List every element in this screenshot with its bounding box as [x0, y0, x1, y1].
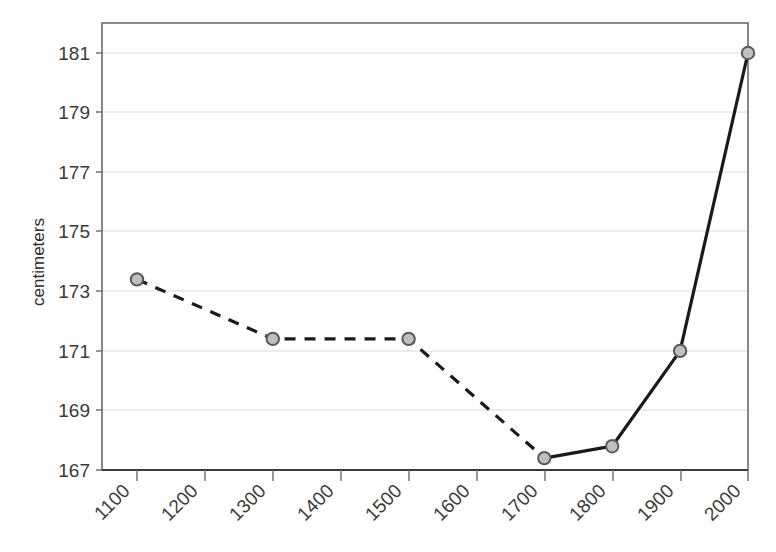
- xtick-label: 1200: [157, 480, 202, 525]
- xtick-label: 1700: [497, 480, 542, 525]
- x-tick-marks: [137, 470, 748, 481]
- chart-canvas: 181 179 177 175 173 171 169 167 centimet…: [0, 0, 776, 552]
- y-tick-marks: [96, 53, 102, 470]
- ytick-label: 167: [58, 460, 90, 481]
- plot-background: [102, 23, 748, 470]
- ytick-label: 175: [58, 221, 90, 242]
- data-point-marker: [402, 333, 414, 345]
- data-point-marker: [267, 333, 279, 345]
- ytick-label: 179: [58, 102, 90, 123]
- xtick-label: 1500: [361, 480, 406, 525]
- ytick-label: 169: [58, 400, 90, 421]
- xtick-label: 1300: [225, 480, 270, 525]
- xtick-label: 2000: [700, 480, 745, 525]
- xtick-label: 1900: [633, 480, 678, 525]
- ytick-label: 181: [58, 43, 90, 64]
- data-point-marker: [606, 440, 618, 452]
- x-axis-tick-labels: 1100 1200 1300 1400 1500 1600 1700 1800 …: [90, 480, 745, 525]
- xtick-label: 1100: [90, 480, 134, 524]
- ytick-label: 177: [58, 162, 90, 183]
- data-point-marker: [131, 273, 143, 285]
- data-point-marker: [538, 452, 550, 464]
- data-point-marker: [674, 345, 686, 357]
- data-point-marker: [742, 47, 754, 59]
- ytick-label: 173: [58, 281, 90, 302]
- xtick-label: 1800: [565, 480, 610, 525]
- y-axis-title: centimeters: [29, 218, 48, 306]
- xtick-label: 1400: [293, 480, 338, 525]
- line-chart: 181 179 177 175 173 171 169 167 centimet…: [0, 0, 776, 552]
- ytick-label: 171: [58, 341, 90, 362]
- xtick-label: 1600: [429, 480, 474, 525]
- y-axis-tick-labels: 181 179 177 175 173 171 169 167: [58, 43, 90, 481]
